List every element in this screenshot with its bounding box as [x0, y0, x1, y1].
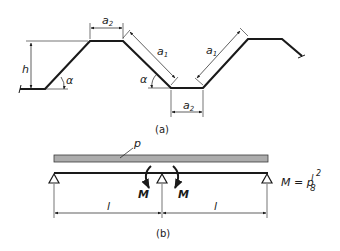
web-right-label: a1: [206, 44, 217, 58]
moment-arrow-right: [173, 166, 178, 188]
angle-right: α: [140, 73, 171, 88]
bottom-flange-dimension: a2: [171, 90, 203, 117]
span-right-label: l: [214, 200, 217, 213]
moment-right-label: M: [178, 188, 189, 201]
angle-left: α: [45, 74, 74, 89]
distributed-load: [54, 155, 268, 162]
height-dimension: h: [22, 41, 88, 88]
support-middle: [157, 174, 167, 183]
figure-b: p M M M = p l 2 8 l l (b): [49, 137, 321, 239]
web-left-label: a1: [157, 45, 168, 59]
moment-left-label: M: [138, 188, 149, 201]
angle-right-label: α: [140, 73, 148, 86]
moment-arrow-left: [146, 166, 151, 188]
formula-exponent: 2: [316, 169, 321, 178]
moment-formula: M = p l 2 8: [281, 169, 321, 193]
structural-diagram: h α α a2 a2: [0, 0, 340, 251]
span-left-label: l: [107, 200, 110, 213]
caption-b: (b): [156, 228, 170, 239]
support-left: [49, 174, 59, 183]
bottom-flange-label: a2: [183, 99, 195, 113]
top-flange-label: a2: [102, 14, 114, 28]
height-label: h: [22, 63, 29, 76]
formula-lhs: M = p: [281, 176, 314, 189]
top-flange-dimension: a2: [90, 14, 123, 39]
web-right-dimension: a1: [195, 28, 248, 85]
web-left-dimension: a1: [123, 30, 178, 85]
support-right: [262, 174, 272, 183]
formula-denominator: 8: [310, 183, 316, 193]
figure-a: h α α a2 a2: [19, 14, 305, 135]
load-label: p: [133, 137, 141, 150]
angle-left-label: α: [66, 74, 74, 87]
caption-a: (a): [155, 124, 169, 135]
